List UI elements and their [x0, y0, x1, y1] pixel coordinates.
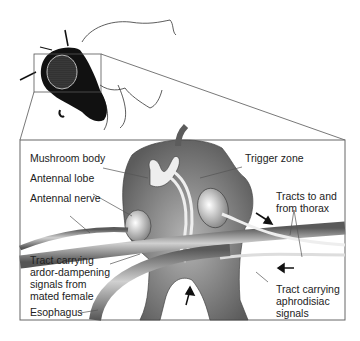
label-trigger-zone: Trigger zone — [245, 152, 304, 164]
label-tract-ardor: Tract carrying ardor-dampening signals f… — [30, 254, 110, 302]
label-tract-aphrodisiac: Tract carrying aphrodisiac signals — [276, 283, 340, 319]
label-esophagus: Esophagus — [30, 306, 83, 318]
antennal-lobe-shape — [125, 210, 151, 242]
fly-illustration — [20, 20, 176, 130]
label-mushroom-body: Mushroom body — [30, 152, 105, 164]
label-antennal-nerve: Antennal nerve — [30, 192, 101, 204]
label-tracts-thorax: Tracts to and from thorax — [276, 190, 337, 214]
label-antennal-lobe: Antennal lobe — [30, 172, 94, 184]
